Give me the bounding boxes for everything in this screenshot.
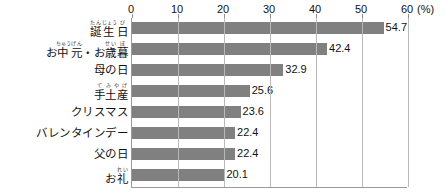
category-label-text: バレンタインデー [36,127,128,140]
gridline-30 [270,18,271,187]
furigana: ちゅう [56,40,71,46]
bar-7 [132,148,235,160]
ruby-group: 歳せい [105,46,117,60]
plain-text: 母の日 [94,63,129,77]
x-tickmark-30 [270,14,271,18]
category-label: お礼れい [105,165,128,186]
furigana: ぼ [117,40,129,46]
ruby-group: 誕たん [90,25,102,39]
furigana: みやげ [105,82,128,88]
x-tick-label-0: 0 [128,3,134,15]
category-label-text: お礼れい [105,166,128,186]
ruby-group: 土産みやげ [105,88,128,102]
category-label-text: 母の日 [94,64,129,77]
ruby-group: 暮ぼ [117,46,129,60]
category-label: クリスマス [71,102,129,123]
furigana: たん [90,19,102,25]
category-label-text: 父の日 [94,148,129,161]
x-tick-label-50: 50 [355,3,367,15]
bar-value-label: 20.1 [224,167,247,182]
category-label: 手て土産みやげ [94,81,129,102]
x-axis-unit-label: (%) [417,3,434,15]
ruby-group: 手て [94,88,106,102]
ruby-group: 中ちゅう [57,46,70,60]
x-tickmark-10 [178,14,179,18]
category-label: 誕たん生じょう日び [90,18,128,39]
gridline-60 [408,18,409,187]
x-tick-label-60: 60 [401,3,413,15]
furigana: せい [105,40,117,46]
plain-text: お [94,46,106,60]
x-tick-label-40: 40 [309,3,321,15]
gridline-40 [316,18,317,187]
bar-value-label: 23.6 [241,104,264,119]
bar-chart: 0102030405060(%) 誕たん生じょう日びお中ちゅう元げん・お歳せい暮… [0,0,446,196]
x-tickmark-60 [408,14,409,18]
plot-area: 54.742.432.925.623.622.422.420.1 [131,18,407,188]
bar-6 [132,127,235,139]
furigana: じょう [102,19,117,25]
x-tick-label-10: 10 [171,3,183,15]
category-label-text: お中ちゅう元げん・お歳せい暮ぼ [46,40,128,60]
category-label: お中ちゅう元げん・お歳せい暮ぼ [46,39,128,60]
category-label: 母の日 [94,60,129,81]
gridline-50 [362,18,363,187]
bar-value-label: 22.4 [235,125,258,140]
furigana: び [117,19,129,25]
plain-text: バレンタインデー [36,126,128,140]
ruby-group: 元げん [71,46,83,60]
bar-4 [132,85,250,97]
category-axis-labels: 誕たん生じょう日びお中ちゅう元げん・お歳せい暮ぼ母の日手て土産みやげクリスマスバ… [0,18,129,188]
category-label-text: クリスマス [71,106,129,119]
ruby-group: 日び [117,25,129,39]
bar-1 [132,22,384,34]
bar-value-label: 32.9 [283,62,306,77]
plain-text: ・ [82,46,94,60]
gridline-20 [224,18,225,187]
category-label: バレンタインデー [36,123,128,144]
x-tickmark-50 [362,14,363,18]
plain-text: お [105,172,117,186]
category-label-text: 誕たん生じょう日び [90,19,128,39]
furigana: げん [71,40,83,46]
ruby-group: 生じょう [102,25,117,39]
x-tickmark-40 [316,14,317,18]
gridline-10 [178,18,179,187]
furigana: れい [117,166,129,172]
x-tickmark-0 [132,14,133,18]
furigana: て [94,82,106,88]
x-tickmark-20 [224,14,225,18]
bar-value-label: 22.4 [235,146,258,161]
category-label: 父の日 [94,144,129,165]
x-tick-label-20: 20 [217,3,229,15]
category-label-text: 手て土産みやげ [94,82,129,102]
plain-text: 父の日 [94,147,129,161]
plain-text: クリスマス [71,105,129,119]
bar-3 [132,64,283,76]
bar-value-label: 42.4 [327,41,350,56]
bar-2 [132,43,327,55]
bar-value-label: 54.7 [384,20,407,35]
x-tick-label-30: 30 [263,3,275,15]
ruby-group: 礼れい [117,172,129,186]
